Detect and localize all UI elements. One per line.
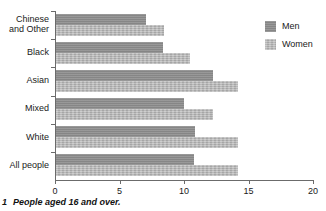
category-label: Asian	[0, 75, 49, 86]
chart-legend: MenWomen	[265, 17, 313, 53]
legend-swatch	[265, 39, 276, 50]
legend-label: Men	[282, 21, 300, 31]
legend-swatch	[265, 21, 276, 32]
x-axis-tick-label: 10	[179, 186, 189, 196]
y-axis-tick	[51, 39, 55, 40]
x-axis-tick	[313, 180, 314, 184]
bar-men	[56, 98, 184, 109]
footnote-text: People aged 16 and over.	[13, 197, 121, 207]
legend-item: Women	[265, 35, 313, 53]
bar-men	[56, 126, 195, 137]
bar-women	[56, 81, 238, 92]
y-axis-tick	[51, 67, 55, 68]
bar-men	[56, 14, 146, 25]
y-axis-tick	[51, 96, 55, 97]
category-label: All people	[0, 160, 49, 171]
x-axis-tick	[184, 180, 185, 184]
category-label: White	[0, 132, 49, 143]
x-axis-tick-label: 0	[52, 186, 57, 196]
x-axis-tick-label: 20	[308, 186, 318, 196]
bar-men	[56, 42, 163, 53]
x-axis-tick	[55, 180, 56, 184]
chart-footnote: 1People aged 16 and over.	[2, 197, 121, 208]
y-axis-tick	[51, 11, 55, 12]
legend-label: Women	[282, 39, 313, 49]
bar-men	[56, 154, 194, 165]
category-label: Chinese and Other	[0, 14, 49, 35]
bar-women	[56, 53, 190, 64]
x-axis-tick	[249, 180, 250, 184]
bar-men	[56, 70, 213, 81]
bar-women	[56, 137, 238, 148]
x-axis-tick-label: 5	[117, 186, 122, 196]
y-axis-tick	[51, 152, 55, 153]
category-label: Mixed	[0, 103, 49, 114]
legend-item: Men	[265, 17, 313, 35]
bar-women	[56, 165, 238, 176]
x-axis-tick-label: 15	[243, 186, 253, 196]
bar-chart: Chinese and OtherBlackAsianMixedWhiteAll…	[0, 0, 326, 211]
category-label: Black	[0, 47, 49, 58]
y-axis-tick	[51, 124, 55, 125]
bar-women	[56, 109, 213, 120]
footnote-number: 1	[2, 197, 7, 207]
x-axis-tick	[120, 180, 121, 184]
bar-women	[56, 25, 164, 36]
